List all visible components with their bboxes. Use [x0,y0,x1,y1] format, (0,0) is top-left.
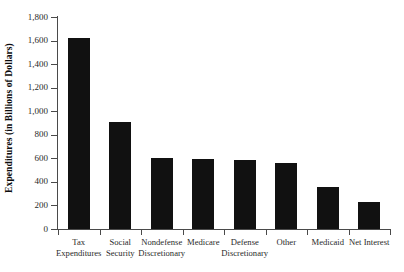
x-tick-mark [390,230,391,235]
y-tick-mark [51,135,57,136]
y-tick-label: 200 [14,201,48,210]
bar [151,158,173,229]
y-tick-label: 1,600 [14,36,48,45]
x-tick-mark [224,230,225,235]
bar [68,38,90,229]
y-tick-label: 800 [14,130,48,139]
y-tick-label: 0 [14,225,48,234]
y-tick-label: 1,400 [14,60,48,69]
y-tick-mark [51,88,57,89]
bar [358,202,380,229]
x-tick-mark [100,230,101,235]
x-tick-mark [141,230,142,235]
y-tick-mark [51,17,57,18]
y-tick-label: 400 [14,177,48,186]
y-tick-mark [51,205,57,206]
bar [109,122,131,229]
x-tick-mark [349,230,350,235]
y-tick-mark [51,182,57,183]
y-tick-label: 600 [14,154,48,163]
bars-layer [58,17,390,229]
y-tick-mark [51,111,57,112]
y-tick-mark [51,229,57,230]
y-tick-mark [51,158,57,159]
bar [275,163,297,229]
bar [317,187,339,229]
y-tick-mark [51,64,57,65]
y-tick-mark [51,41,57,42]
y-axis-title-text: Expenditures (in Billions of Dollars) [4,43,14,193]
y-tick-label: 1,200 [14,83,48,92]
y-tick-label: 1,000 [14,107,48,116]
y-tick-label: 1,800 [14,13,48,22]
x-tick-mark [307,230,308,235]
x-tick-mark [58,230,59,235]
bar-chart: Expenditures (in Billions of Dollars) 02… [0,0,404,272]
bar [192,159,214,229]
x-tick-mark [183,230,184,235]
x-tick-mark [266,230,267,235]
x-axis-label: Net Interest [342,237,398,248]
bar [234,160,256,229]
